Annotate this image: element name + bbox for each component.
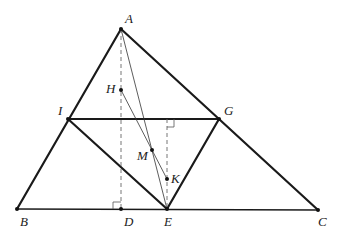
label-A: A bbox=[124, 11, 133, 26]
label-D: D bbox=[123, 214, 134, 229]
label-C: C bbox=[318, 214, 327, 229]
label-E: E bbox=[163, 214, 172, 229]
point-M bbox=[150, 148, 154, 152]
segment-HK bbox=[121, 90, 167, 179]
label-K: K bbox=[170, 171, 181, 186]
right-angle-marker-IG bbox=[167, 119, 174, 127]
point-C bbox=[316, 208, 320, 212]
point-H bbox=[119, 88, 123, 92]
label-B: B bbox=[20, 214, 28, 229]
point-B bbox=[15, 207, 19, 211]
point-K bbox=[165, 177, 169, 181]
point-D bbox=[119, 207, 123, 211]
label-I: I bbox=[57, 103, 63, 118]
geometry-diagram: A B C D E I G H M K bbox=[0, 0, 344, 238]
point-A bbox=[119, 27, 123, 31]
label-G: G bbox=[224, 103, 234, 118]
label-H: H bbox=[105, 81, 116, 96]
label-M: M bbox=[136, 148, 149, 163]
point-G bbox=[217, 117, 221, 121]
point-I bbox=[66, 117, 70, 121]
segment-GE bbox=[167, 119, 219, 209]
segment-IE bbox=[68, 119, 167, 209]
point-E bbox=[165, 207, 169, 211]
